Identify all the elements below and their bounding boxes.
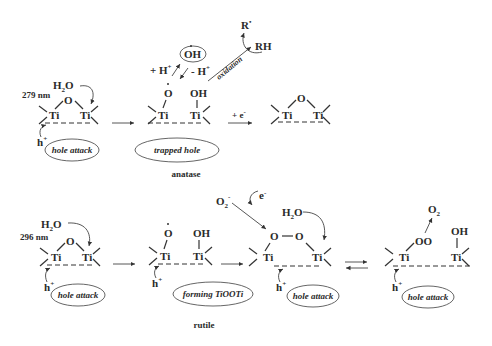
o2-release-arrow: [425, 218, 432, 233]
superoxide: O2-: [216, 193, 231, 210]
hole-attack-label: hole attack: [293, 291, 334, 301]
rutile-structure-4: O2 OO OH Ti Ti h+ hole attack: [385, 203, 470, 308]
rutile-label: rutile: [194, 320, 215, 330]
ti-left: Ti: [160, 250, 170, 262]
hole-h-plus: h+: [276, 280, 286, 293]
h2o-label: H2O: [282, 206, 303, 221]
ti-left: Ti: [49, 109, 59, 121]
ti-right: Ti: [451, 251, 461, 263]
plus-electron: + e-: [232, 108, 246, 120]
o-radical: O: [164, 87, 173, 99]
wavelength-296: 296 nm: [20, 232, 49, 242]
ti-left: Ti: [263, 251, 273, 263]
r-radical: R•: [241, 18, 252, 31]
peroxo-o1: O: [270, 230, 279, 242]
hole-attack-label: hole attack: [58, 290, 99, 300]
oh-group: OH: [193, 227, 211, 239]
h2o-label: H2O: [53, 79, 74, 94]
wavelength-279: 279 nm: [22, 90, 51, 100]
rutile-structure-2: O OH Ti Ti h+ forming TiOOTi rutile: [149, 223, 253, 330]
ti-right: Ti: [82, 251, 92, 263]
bridging-o: O: [66, 235, 75, 247]
oh-group: OH: [451, 225, 469, 237]
oh-group: OH: [190, 87, 208, 99]
anatase-label: anatase: [172, 169, 201, 179]
electron-curve: [250, 191, 258, 205]
oh-radical: OH: [184, 48, 202, 60]
hole-attack-label: hole attack: [408, 292, 449, 302]
ti-left: Ti: [282, 109, 292, 121]
oo-group: OO: [415, 235, 433, 247]
peroxo-o2: O: [295, 230, 304, 242]
anatase-structure-2: O OH Ti Ti trapped hole anatase OH + H+ …: [135, 18, 272, 179]
anatase-structure-3: O Ti Ti: [271, 92, 330, 124]
o-radical: O: [164, 227, 173, 239]
ti-right: Ti: [313, 109, 323, 121]
oxidation-label: oxidation: [215, 54, 245, 81]
ti-left: Ti: [158, 109, 168, 121]
bridging-o: O: [297, 92, 306, 104]
ti-right: Ti: [193, 250, 203, 262]
hole-h-plus: h+: [37, 135, 47, 148]
electron: e-: [259, 189, 267, 201]
hole-attack-label: hole attack: [52, 145, 93, 155]
h2o-label: H2O: [41, 218, 62, 233]
superoxide-arrow: [232, 203, 266, 229]
ti-right: Ti: [80, 109, 90, 121]
rh-label: RH: [255, 40, 272, 52]
bridging-o: O: [64, 94, 73, 106]
anatase-structure-1: 279 nm H2O O Ti Ti h+ hole attack: [22, 79, 99, 161]
minus-h: - H+: [191, 64, 210, 77]
rutile-structure-1: 296 nm H2O O Ti Ti h+ hole attack: [20, 218, 105, 306]
trapped-hole-label: trapped hole: [154, 145, 200, 155]
oxygen-o2: O2: [428, 203, 441, 218]
plus-h: + H+: [150, 63, 172, 76]
reaction-diagram: 279 nm H2O O Ti Ti h+ hole attack O OH T…: [0, 0, 492, 346]
hole-h-plus: h+: [392, 280, 402, 293]
ti-right: Ti: [312, 251, 322, 263]
ti-left: Ti: [399, 251, 409, 263]
forming-tiooti-label: forming TiOOTi: [183, 289, 244, 299]
hole-h-plus: h+: [152, 276, 162, 289]
ti-left: Ti: [51, 251, 61, 263]
h2o-attack-arrow: [303, 212, 325, 240]
ti-right: Ti: [190, 109, 200, 121]
h2o-attack-arrow: [80, 86, 93, 104]
